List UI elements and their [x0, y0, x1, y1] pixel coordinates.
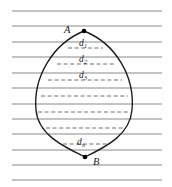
geometry-figure: ABd1d2d3dn	[0, 0, 172, 187]
lens-outline-right	[84, 31, 132, 157]
chord-label-dn: dn	[77, 138, 85, 148]
point-marker-b	[83, 155, 88, 160]
chord-label-d3: d3	[79, 71, 87, 81]
chord-label-d2: d2	[79, 55, 87, 65]
figure-canvas	[0, 0, 172, 187]
point-label-b: B	[93, 157, 99, 168]
chord-label-d1: d1	[79, 39, 87, 49]
point-label-a: A	[64, 25, 70, 36]
ruled-lines-group	[12, 11, 162, 180]
point-marker-a	[82, 29, 87, 34]
